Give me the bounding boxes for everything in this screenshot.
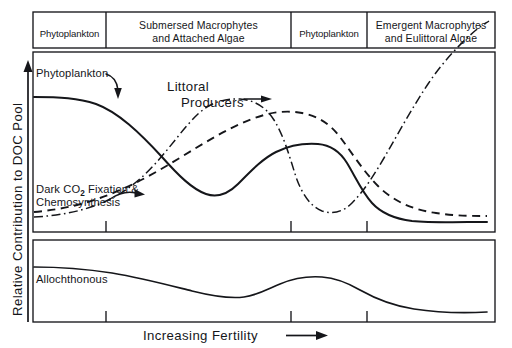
x-axis-label: Increasing Fertility bbox=[143, 328, 258, 343]
y-axis-arrow-icon bbox=[24, 60, 33, 72]
header-label-phytoplankton-2: Phytoplankton bbox=[299, 28, 359, 39]
x-axis-group: Increasing Fertility bbox=[143, 328, 328, 343]
figure-root: Phytoplankton Submersed Macrophytes and … bbox=[0, 0, 512, 348]
label-phytoplankton: Phytoplankton bbox=[36, 67, 108, 79]
pointer-head-phytoplankton bbox=[114, 88, 122, 99]
label-chemosynthesis: Chemosynthesis bbox=[36, 196, 120, 208]
y-axis-label: Relative Contribution to DOC Pool bbox=[10, 103, 25, 316]
header-band-labels: Phytoplankton Submersed Macrophytes and … bbox=[40, 19, 487, 44]
lower-panel-curve-labels: Allochthonous bbox=[36, 273, 108, 285]
header-label-submersed-line1: Submersed Macrophytes bbox=[139, 19, 258, 31]
x-axis-arrow-icon bbox=[316, 331, 328, 340]
header-label-emergent-line1: Emergent Macrophytes bbox=[376, 19, 487, 31]
label-dark-co2-text-a: Dark CO bbox=[36, 183, 80, 195]
header-label-phytoplankton-1: Phytoplankton bbox=[40, 28, 100, 39]
label-allochthonous: Allochthonous bbox=[36, 273, 108, 285]
label-littoral-producers-line1: Littoral bbox=[167, 79, 209, 94]
pointer-head-littoral-producers bbox=[261, 96, 272, 103]
label-littoral-producers-line2: Producers bbox=[181, 95, 244, 110]
label-dark-co2-text-b: Fixation & bbox=[85, 183, 139, 195]
figure-canvas: Phytoplankton Submersed Macrophytes and … bbox=[0, 0, 512, 348]
y-axis-group: Relative Contribution to DOC Pool bbox=[10, 60, 33, 322]
header-label-submersed-line2: and Attached Algae bbox=[152, 32, 244, 44]
